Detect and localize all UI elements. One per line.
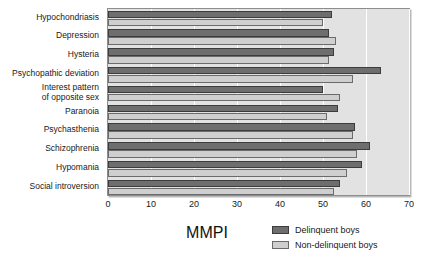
y-axis-label: Social introversion xyxy=(0,182,103,192)
x-tick-label: 40 xyxy=(275,199,285,209)
legend-item: Delinquent boys xyxy=(272,222,427,237)
x-tick-label: 60 xyxy=(361,199,371,209)
bar-row xyxy=(108,122,409,141)
y-axis-category-labels: HypochondriasisDepressionHysteriaPsychop… xyxy=(0,8,103,196)
x-tick-label: 10 xyxy=(146,199,156,209)
bar-delinquent xyxy=(108,67,381,75)
bar-delinquent xyxy=(108,105,338,113)
bar-row xyxy=(108,141,409,160)
bar-row xyxy=(108,28,409,47)
bar-delinquent xyxy=(108,86,323,94)
y-axis-label: Hypochondriasis xyxy=(0,13,103,23)
bar-row xyxy=(108,9,409,28)
bar-delinquent xyxy=(108,29,329,37)
bar-non-delinquent xyxy=(108,150,357,158)
plot-area xyxy=(107,8,410,196)
bar-row xyxy=(108,47,409,66)
bar-row xyxy=(108,65,409,84)
x-tick-label: 30 xyxy=(232,199,242,209)
y-axis-label: Depression xyxy=(0,31,103,41)
bar-delinquent xyxy=(108,48,334,56)
y-axis-label: Hysteria xyxy=(0,50,103,60)
gridline-70 xyxy=(409,9,410,195)
bar-delinquent xyxy=(108,180,340,188)
x-tick-label: 70 xyxy=(404,199,414,209)
x-tick-label: 20 xyxy=(189,199,199,209)
y-axis-label: Psychopathic deviation xyxy=(0,69,103,79)
legend-label: Delinquent boys xyxy=(295,225,360,235)
light-gray-swatch xyxy=(272,241,289,249)
x-axis: 010203040506070 xyxy=(107,197,410,213)
bar-delinquent xyxy=(108,11,332,19)
x-tick-label: 50 xyxy=(318,199,328,209)
bar-non-delinquent xyxy=(108,113,327,121)
bar-row xyxy=(108,103,409,122)
dark-gray-swatch xyxy=(272,226,289,234)
y-axis-label: Schizophrenia xyxy=(0,144,103,154)
bar-row xyxy=(108,178,409,197)
bar-rows xyxy=(108,9,409,195)
legend: Delinquent boysNon-delinquent boys xyxy=(272,222,427,252)
legend-item: Non-delinquent boys xyxy=(272,237,427,252)
bar-delinquent xyxy=(108,142,370,150)
y-axis-label: Hypomania xyxy=(0,163,103,173)
bar-row xyxy=(108,84,409,103)
y-axis-label: Paranoia xyxy=(0,107,103,117)
bar-non-delinquent xyxy=(108,75,353,83)
bar-delinquent xyxy=(108,123,355,131)
bar-row xyxy=(108,159,409,178)
bar-non-delinquent xyxy=(108,131,353,139)
x-tick-label: 0 xyxy=(105,199,110,209)
y-axis-label: Interest pattern of opposite sex xyxy=(0,83,103,102)
mmpi-bar-chart: HypochondriasisDepressionHysteriaPsychop… xyxy=(0,0,427,257)
bar-non-delinquent xyxy=(108,19,323,27)
bar-non-delinquent xyxy=(108,56,329,64)
bar-non-delinquent xyxy=(108,169,347,177)
bar-delinquent xyxy=(108,161,362,169)
y-axis-label: Psychasthenia xyxy=(0,125,103,135)
bar-non-delinquent xyxy=(108,37,336,45)
legend-label: Non-delinquent boys xyxy=(295,240,378,250)
bar-non-delinquent xyxy=(108,188,334,196)
bar-non-delinquent xyxy=(108,94,340,102)
x-axis-title: MMPI xyxy=(186,224,228,241)
